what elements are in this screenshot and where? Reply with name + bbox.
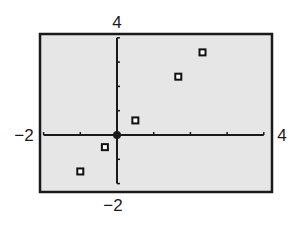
x-min-label: −2 — [14, 126, 33, 145]
x-max-label: 4 — [277, 126, 286, 145]
data-point-marker — [175, 74, 181, 80]
data-point-marker — [102, 144, 108, 150]
data-point-marker — [77, 168, 83, 174]
data-point-marker — [132, 117, 138, 123]
y-max-label: 4 — [112, 13, 121, 32]
origin-marker — [113, 131, 121, 139]
y-min-label: −2 — [103, 196, 122, 215]
data-point-marker — [200, 49, 206, 55]
plot-area — [40, 34, 272, 192]
scatter-plot: 4 −2 −2 4 — [0, 0, 292, 228]
